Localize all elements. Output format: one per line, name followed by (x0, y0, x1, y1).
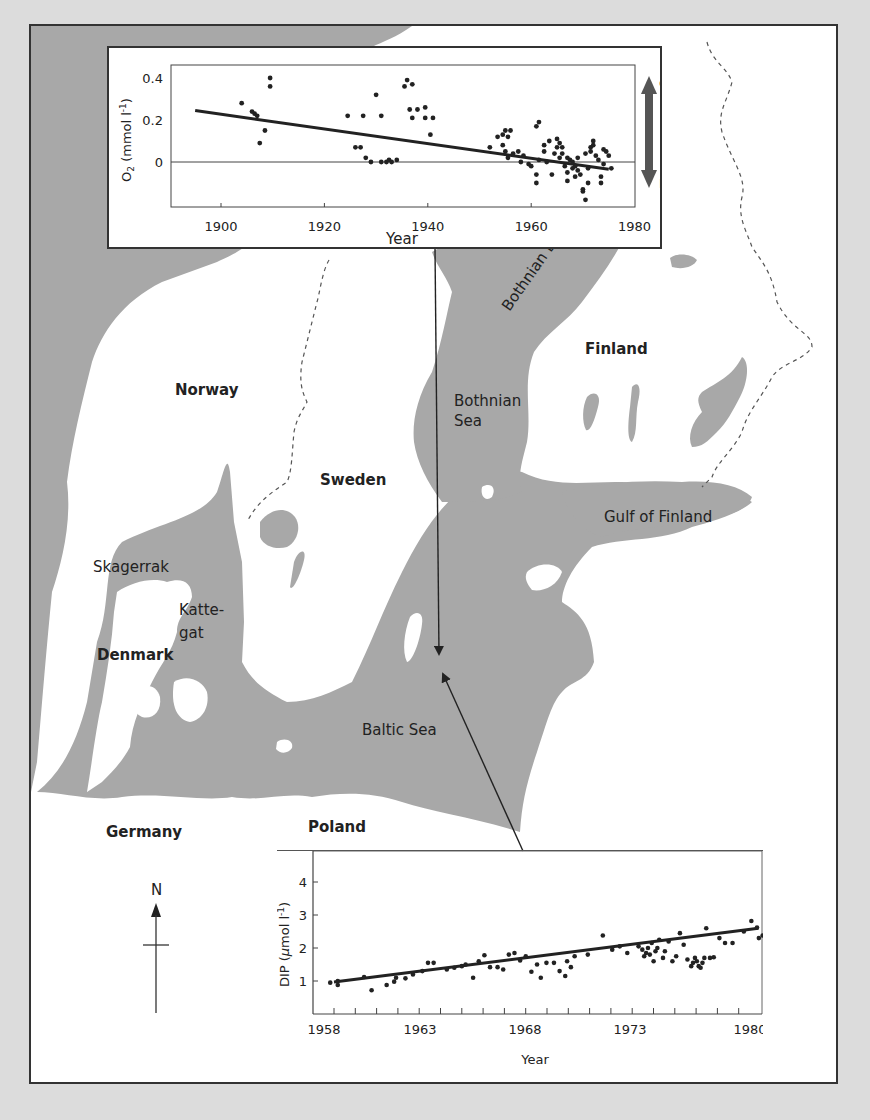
map-figure: Norway Sweden Finland Denmark Germany Po… (29, 24, 838, 1084)
data-point (426, 961, 431, 966)
oxygen-chart-panel: 00.20.419001920194019601980YearO2 (mmol … (107, 46, 662, 249)
x-tick-label: 1963 (403, 1022, 436, 1037)
x-tick-label: 1973 (613, 1022, 646, 1037)
data-point (353, 145, 358, 150)
data-point (663, 949, 668, 954)
data-point (599, 174, 604, 179)
data-point (609, 166, 614, 171)
data-point (549, 172, 554, 177)
data-point (423, 116, 428, 121)
data-point (542, 143, 547, 148)
data-point (512, 951, 517, 956)
data-point (534, 124, 539, 129)
data-point (555, 145, 560, 150)
data-point (415, 107, 420, 112)
data-point (625, 951, 630, 956)
data-point (452, 966, 457, 971)
data-point (411, 972, 416, 977)
data-point (640, 947, 645, 952)
data-point (394, 158, 399, 163)
x-tick-label: 1960 (515, 219, 548, 234)
data-point (685, 957, 690, 962)
data-point (363, 155, 368, 160)
data-point (547, 139, 552, 144)
data-point (578, 172, 583, 177)
x-tick-label: 1958 (307, 1022, 340, 1037)
data-point (389, 160, 394, 165)
dip-chart-panel: 123419581963196819731980YearDIP (μmol l-… (277, 850, 763, 1084)
data-point (335, 979, 340, 984)
y-tick-label: 4 (299, 875, 307, 890)
data-point (617, 944, 622, 949)
data-point (482, 953, 487, 958)
data-point (555, 137, 560, 142)
data-point (742, 929, 747, 934)
data-point (506, 155, 511, 160)
data-point (361, 113, 366, 118)
data-point (508, 128, 513, 133)
data-point (500, 143, 505, 148)
data-point (407, 107, 412, 112)
data-point (537, 120, 542, 125)
data-point (544, 961, 549, 966)
data-point (503, 128, 508, 133)
y-tick-label: 0 (155, 155, 163, 170)
data-point (423, 105, 428, 110)
data-point (445, 967, 450, 972)
data-point (410, 116, 415, 121)
data-point (723, 941, 728, 946)
data-point (572, 954, 577, 959)
data-point (575, 155, 580, 160)
data-point (606, 153, 611, 158)
data-point (596, 158, 601, 163)
x-tick-label: 1980 (733, 1022, 763, 1037)
data-point (657, 937, 662, 942)
data-point (552, 961, 557, 966)
y-axis-title: O2 (mmol l-1) (118, 98, 136, 182)
data-point (681, 942, 686, 947)
data-point (384, 983, 389, 988)
dip-scatter-plot: 123419581963196819731980YearDIP (μmol l-… (277, 851, 763, 1084)
data-point (529, 969, 534, 974)
data-point (420, 969, 425, 974)
data-point (544, 160, 549, 165)
data-point (535, 962, 540, 967)
data-point (755, 925, 760, 930)
sulfidic-label: HS− (659, 175, 660, 191)
data-point (428, 132, 433, 137)
data-point (651, 959, 656, 964)
data-point (488, 965, 493, 970)
data-point (369, 160, 374, 165)
data-point (670, 959, 675, 964)
data-point (646, 946, 651, 951)
x-tick-label: 1968 (508, 1022, 541, 1037)
data-point (529, 164, 534, 169)
x-axis-title: Year (385, 230, 419, 247)
data-point (588, 149, 593, 154)
data-point (573, 174, 578, 179)
data-point (328, 980, 333, 985)
data-point (666, 939, 671, 944)
data-point (565, 959, 570, 964)
data-point (542, 149, 547, 154)
data-point (563, 974, 568, 979)
data-point (557, 141, 562, 146)
arrow-dip-to-site (443, 674, 523, 851)
data-point (573, 164, 578, 169)
data-point (560, 145, 565, 150)
data-point (552, 151, 557, 156)
data-point (518, 160, 523, 165)
data-point (394, 975, 399, 980)
y-axis-title: DIP (μmol l-1) (277, 902, 292, 987)
data-point (431, 961, 436, 966)
data-point (345, 113, 350, 118)
data-point (562, 164, 567, 169)
data-point (575, 168, 580, 173)
data-point (487, 145, 492, 150)
data-point (583, 151, 588, 156)
data-point (655, 946, 660, 951)
data-point (569, 965, 574, 970)
y-tick-label: 3 (299, 908, 307, 923)
data-point (501, 967, 506, 972)
y-tick-label: 0.4 (142, 71, 163, 86)
